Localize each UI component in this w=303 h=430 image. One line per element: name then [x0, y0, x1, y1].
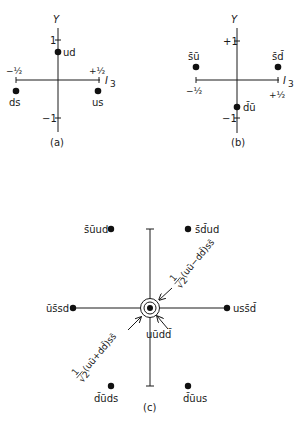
- center-dot: [147, 305, 153, 311]
- arrow-lower-annotation: [128, 317, 141, 330]
- state-dot-lower-right: [185, 383, 191, 389]
- annotation-lower-expr: (uū+dd̄)ss̄: [80, 331, 118, 374]
- arrow-right-annotation: [157, 316, 168, 329]
- x-axis-label: I: [283, 75, 286, 86]
- state-label-lower-left: d̄ūds: [94, 392, 118, 404]
- state-dot-sbar-ubar: [193, 64, 200, 71]
- state-label-right: uss̄d̄: [233, 302, 256, 314]
- y-axis-label: Y: [231, 14, 238, 25]
- x-axis-label: I: [105, 75, 108, 86]
- annotation-right: uūdd̄: [146, 328, 172, 340]
- tick-label-x-neg: −½: [6, 66, 23, 76]
- tick-label-x-neg: −½: [186, 86, 203, 96]
- state-dot-right: [224, 305, 230, 311]
- state-label-upper-right: s̄d̄ud: [195, 223, 219, 235]
- state-dot-ds: [13, 88, 20, 95]
- state-dot-lower-left: [108, 383, 114, 389]
- state-label-ud: ud: [63, 47, 76, 58]
- state-label-dbar-ubar: d̄ū: [243, 101, 256, 113]
- state-label-upper-left: s̄ūud: [84, 224, 108, 235]
- tick-label-y-neg: −1: [42, 113, 57, 124]
- y-axis-label: Y: [53, 14, 60, 25]
- panel-b: Y +1 −1 −½ +½ I 3 s̄ū s̄d̄ d̄ū (b): [186, 14, 294, 148]
- caption-b: (b): [231, 137, 245, 148]
- state-label-left: ūs̄sd: [46, 303, 69, 314]
- x-axis-sub: 3: [288, 79, 294, 89]
- state-dot-ud: [55, 49, 62, 56]
- caption-a: (a): [50, 137, 64, 148]
- state-dot-upper-left: [108, 226, 114, 232]
- state-label-sbar-dbar: s̄d̄: [272, 50, 284, 62]
- tick-label-y-neg: −1: [222, 113, 237, 124]
- annotation-upper-expr: (uū−dd̄)ss̄: [178, 237, 216, 280]
- caption-c: (c): [143, 402, 156, 413]
- state-label-sbar-ubar: s̄ū: [188, 51, 200, 62]
- state-dot-upper-right: [185, 226, 191, 232]
- arrow-upper-annotation: [159, 288, 172, 300]
- tick-label-y-pos: +1: [223, 36, 238, 47]
- panel-a: Y 1 −1 −½ +½ I 3 ud ds us (a): [6, 14, 116, 148]
- tick-label-y-pos: 1: [50, 35, 56, 46]
- tick-label-x-pos: +½: [89, 66, 106, 76]
- state-dot-dbar-ubar: [234, 104, 241, 111]
- annotation-upper: 1 √2 (uū−dd̄)ss̄: [167, 233, 220, 290]
- state-label-us: us: [92, 97, 104, 108]
- state-label-lower-right: d̄ūus: [183, 392, 207, 404]
- state-dot-left: [70, 305, 76, 311]
- panel-c: s̄ūud s̄d̄ud ūs̄sd uss̄d̄ d̄ūds d̄ūus 1 …: [46, 223, 256, 413]
- state-dot-sbar-dbar: [275, 64, 282, 71]
- state-dot-us: [95, 88, 102, 95]
- tick-label-x-pos: +½: [269, 90, 286, 100]
- x-axis-sub: 3: [110, 79, 116, 89]
- annotation-lower: 1 √2 (uū+dd̄)ss̄: [69, 327, 122, 384]
- weight-diagrams: Y 1 −1 −½ +½ I 3 ud ds us (a) Y +1 −1 −½…: [0, 0, 303, 430]
- state-label-ds: ds: [9, 97, 21, 108]
